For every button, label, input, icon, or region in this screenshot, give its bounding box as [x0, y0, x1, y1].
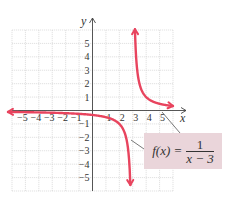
- y-tick-label: 3: [85, 65, 90, 76]
- y-tick-label: −3: [79, 145, 90, 156]
- function-lhs: f(x) =: [152, 143, 182, 159]
- x-tick-label: 3: [133, 112, 138, 123]
- fraction-numerator: 1: [195, 138, 206, 151]
- x-tick-label: 4: [147, 112, 152, 123]
- function-graph: −5−4−3−2−11234554321−1−2−3−4−5 y x: [0, 0, 228, 203]
- y-tick-label: −4: [79, 159, 90, 170]
- y-axis-label: y: [80, 14, 87, 28]
- y-tick-label: 5: [85, 38, 90, 49]
- y-tick-label: 1: [85, 92, 90, 103]
- function-label: f(x) = 1 x − 3: [144, 133, 222, 169]
- y-tick-label: −5: [79, 172, 90, 183]
- y-tick-label: −1: [79, 118, 90, 129]
- callout-leader-line: [162, 112, 180, 133]
- y-tick-label: 2: [85, 78, 90, 89]
- fraction: 1 x − 3: [186, 138, 214, 165]
- y-tick-label: 4: [85, 51, 90, 62]
- x-tick-label: 2: [120, 112, 125, 123]
- x-axis-label: x: [179, 111, 186, 125]
- y-tick-label: −2: [79, 132, 90, 143]
- fraction-denominator: x − 3: [186, 152, 214, 165]
